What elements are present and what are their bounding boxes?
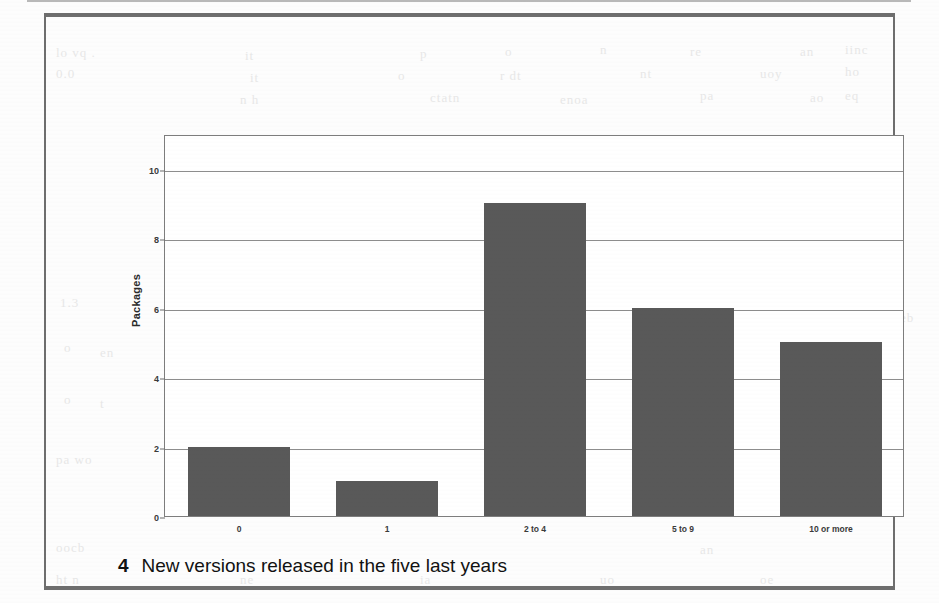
y-tick-label: 2 — [154, 444, 159, 453]
scanned-page: lo vq .itponreaniinc0.0itor dtntuoyhon h… — [0, 0, 939, 603]
figure-number: 4 — [118, 555, 129, 576]
bar-chart: 0246810012 to 45 to 910 or more — [164, 135, 904, 517]
x-tick-label: 0 — [237, 525, 242, 534]
y-tick-label: 8 — [154, 236, 159, 245]
x-tick-label: 1 — [385, 525, 390, 534]
plot-area: 0246810012 to 45 to 910 or more — [165, 136, 903, 516]
gridline — [165, 171, 903, 172]
y-tick-mark — [160, 379, 165, 380]
y-tick-label: 0 — [154, 514, 159, 523]
page-top-rule — [27, 0, 911, 2]
bar — [336, 481, 438, 516]
y-tick-mark — [160, 240, 165, 241]
y-tick-label: 10 — [149, 166, 159, 175]
figure-caption: 4New versions released in the five last … — [118, 556, 507, 575]
bar — [188, 447, 290, 516]
y-tick-mark — [160, 170, 165, 171]
bar — [484, 203, 586, 516]
y-tick-mark — [160, 309, 165, 310]
x-tick-label: 10 or more — [809, 525, 852, 534]
x-tick-label: 5 to 9 — [672, 525, 694, 534]
y-tick-mark — [160, 448, 165, 449]
x-tick-label: 2 to 4 — [524, 525, 546, 534]
y-axis-title: Packages — [130, 274, 142, 327]
figure-border: Packages 0246810012 to 45 to 910 or more… — [44, 13, 895, 590]
y-tick-label: 4 — [154, 375, 159, 384]
bar — [632, 308, 734, 516]
figure-caption-text: New versions released in the five last y… — [142, 555, 507, 576]
bar — [780, 342, 882, 516]
y-tick-mark — [160, 518, 165, 519]
y-tick-label: 6 — [154, 305, 159, 314]
